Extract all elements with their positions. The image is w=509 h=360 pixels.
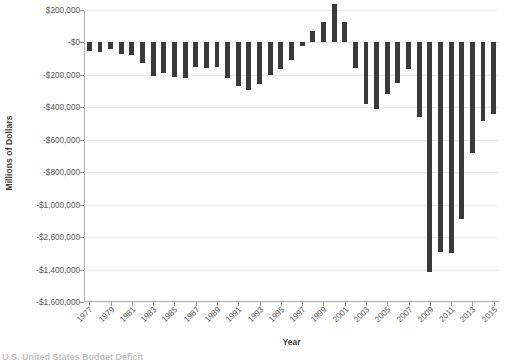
y-tick-label: -$800,000 <box>43 168 80 177</box>
bar <box>321 22 326 42</box>
x-tick-label: 1989 <box>203 305 222 324</box>
bar <box>364 42 369 103</box>
x-tick-label: 2013 <box>459 305 478 324</box>
x-tick-label: 1979 <box>97 305 116 324</box>
bar <box>459 42 464 218</box>
x-tick-label: 2011 <box>438 305 457 324</box>
gridline <box>84 75 499 76</box>
x-tick-label: 2015 <box>480 305 499 324</box>
y-tick-label: -$1,600,000 <box>36 298 80 307</box>
bar <box>395 42 400 82</box>
bar <box>215 42 220 67</box>
y-tick-mark <box>80 42 84 43</box>
x-tick-label: 1981 <box>118 305 137 324</box>
bar <box>268 42 273 75</box>
y-tick-label: -$1,400,000 <box>36 265 80 274</box>
x-tick-label: 1995 <box>267 305 286 324</box>
x-tick-label: 2007 <box>395 305 414 324</box>
bar <box>119 42 124 54</box>
bar <box>481 42 486 121</box>
bar <box>236 42 241 86</box>
y-tick-label: -$600,000 <box>43 135 80 144</box>
gridline <box>84 172 499 173</box>
x-tick-label: 2001 <box>331 305 350 324</box>
y-tick-mark <box>80 172 84 173</box>
y-tick-mark <box>80 205 84 206</box>
gridline <box>84 10 499 11</box>
y-tick-mark <box>80 140 84 141</box>
bar <box>449 42 454 253</box>
bar <box>161 42 166 72</box>
bar <box>385 42 390 94</box>
y-axis-line <box>84 10 85 302</box>
bar <box>257 42 262 83</box>
x-tick-label: 2005 <box>373 305 392 324</box>
bar <box>183 42 188 78</box>
gridline <box>84 270 499 271</box>
bar <box>140 42 145 63</box>
bar <box>342 22 347 43</box>
y-tick-mark <box>80 75 84 76</box>
y-tick-label: -$0 <box>68 38 80 47</box>
x-tick-label: 1999 <box>310 305 329 324</box>
bar <box>289 42 294 59</box>
bar <box>172 42 177 76</box>
x-tick-label: 1987 <box>182 305 201 324</box>
y-tick-label: -$2,600,000 <box>36 233 80 242</box>
y-tick-mark <box>80 270 84 271</box>
y-tick-mark <box>80 237 84 238</box>
bar <box>129 42 134 55</box>
y-tick-mark <box>80 107 84 108</box>
bar <box>310 31 315 42</box>
y-tick-label: -$1,000,000 <box>36 200 80 209</box>
y-tick-label: -$400,000 <box>43 103 80 112</box>
x-tick-label: 1997 <box>288 305 307 324</box>
y-axis-tick-labels: $200,000-$0-$200,000-$400,000-$600,000-$… <box>16 0 84 310</box>
y-tick-mark <box>80 10 84 11</box>
gridline <box>84 140 499 141</box>
bar <box>204 42 209 67</box>
bottom-caption: U.S. United States Budget Deficit <box>2 352 302 360</box>
y-tick-label: -$200,000 <box>43 70 80 79</box>
bar <box>98 42 103 52</box>
bar <box>353 42 358 68</box>
gridline <box>84 205 499 206</box>
x-tick-label: 1985 <box>161 305 180 324</box>
bar <box>151 42 156 76</box>
bar <box>278 42 283 69</box>
bar <box>417 42 422 116</box>
bar <box>87 42 92 51</box>
x-tick-label: 1991 <box>224 305 243 324</box>
bar <box>300 42 305 46</box>
x-tick-label: 1983 <box>139 305 158 324</box>
gridline <box>84 107 499 108</box>
bar <box>246 42 251 89</box>
plot-area <box>84 10 499 302</box>
x-tick-label: 2003 <box>352 305 371 324</box>
x-axis-title: Year <box>84 337 499 347</box>
gridline <box>84 237 499 238</box>
bar <box>374 42 379 109</box>
bar <box>470 42 475 152</box>
y-axis-title-text: Millions of Dollars <box>4 115 14 190</box>
x-axis-tick-labels: 1977197919811983198519871989199119931995… <box>84 302 499 336</box>
bar-chart: Millions of Dollars $200,000-$0-$200,000… <box>0 0 509 360</box>
x-tick-label: 1993 <box>246 305 265 324</box>
bar <box>427 42 432 271</box>
bar <box>193 42 198 66</box>
bar <box>438 42 443 252</box>
bar <box>108 42 113 49</box>
x-tick-label: 2009 <box>416 305 435 324</box>
bar <box>332 4 337 42</box>
bar <box>491 42 496 113</box>
y-tick-label: $200,000 <box>46 6 80 15</box>
bar <box>225 42 230 78</box>
bar <box>406 42 411 68</box>
